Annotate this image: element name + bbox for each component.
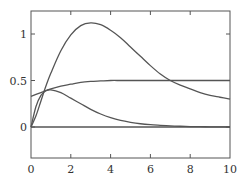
y-tick-label: 0 [20,121,27,134]
curve-small-peak [31,90,230,127]
curve-saturating [31,80,230,96]
x-tick-label: 4 [107,163,114,174]
curve-large-peak [31,23,230,127]
plot-frame [31,11,230,158]
y-tick-label: 0.5 [10,75,28,88]
x-tick-label: 10 [223,163,237,174]
x-tick-label: 8 [187,163,194,174]
x-tick-label: 6 [147,163,154,174]
x-tick-labels: 0246810 [28,163,238,174]
axis-ticks [31,11,230,158]
y-tick-label: 1 [20,28,27,41]
x-tick-label: 0 [28,163,35,174]
data-curves [31,23,230,127]
line-chart: 0246810 00.51 [0,0,246,174]
y-tick-labels: 00.51 [10,28,28,134]
x-tick-label: 2 [67,163,74,174]
